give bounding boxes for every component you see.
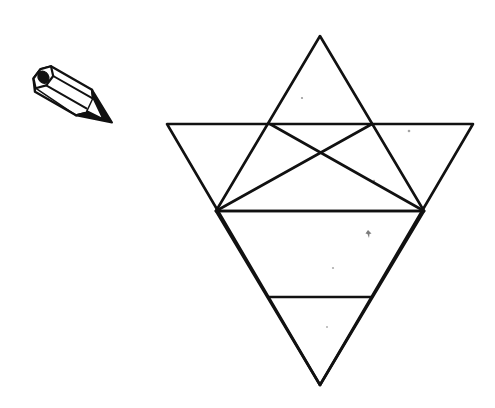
smudge-upper-mark	[301, 97, 303, 99]
paper-smudges	[301, 97, 410, 328]
down-triangle	[167, 124, 473, 385]
smudge-arrow-mark	[366, 230, 372, 238]
figure-svg	[0, 0, 495, 408]
hexagram-figure	[167, 36, 473, 385]
pencil-icon	[34, 66, 113, 122]
smudge-lower-mark	[332, 267, 334, 269]
smudge-bottom-mark	[326, 326, 328, 328]
smudge-center-mark	[373, 180, 375, 182]
smudge-right-mark	[408, 130, 411, 133]
drawing-canvas: Hexagram star figure with pencil icon Ha…	[0, 0, 495, 408]
